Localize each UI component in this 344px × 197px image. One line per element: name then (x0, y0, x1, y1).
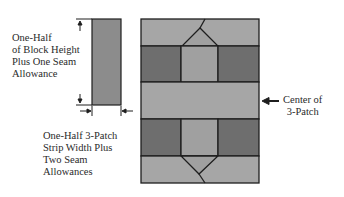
three-patch-block (141, 19, 259, 183)
center-note: Center of 3-Patch (283, 94, 322, 118)
width-dimension (80, 106, 133, 116)
cut-strip (92, 19, 121, 105)
height-note: One-Half of Block Height Plus One Seam A… (12, 32, 80, 80)
width-note: One-Half 3-Patch Strip Width Plus Two Se… (43, 130, 117, 178)
center-arrow (262, 98, 279, 105)
